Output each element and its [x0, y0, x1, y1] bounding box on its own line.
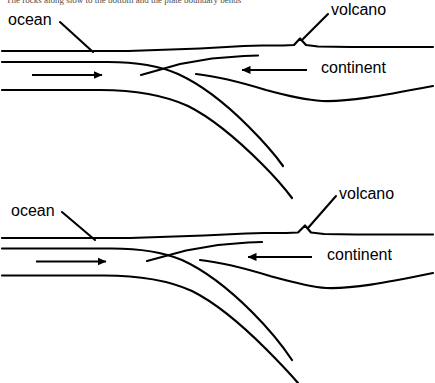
diagram-canvas: The rocks along slow to the bottom and t… [0, 0, 435, 383]
volcano-label-bottom: volcano [339, 186, 394, 202]
continental-wedge-line-top [141, 56, 258, 76]
oceanic-crust-base-line-bottom [2, 249, 292, 361]
continental-wedge-line-bottom [147, 242, 262, 261]
ocean-leader-line-bottom [62, 212, 95, 240]
lithosphere-base-line-bottom [2, 276, 298, 383]
ocean-label-top: ocean [8, 12, 52, 28]
continental-moho-line-top [196, 74, 433, 101]
continent-label-bottom: continent [327, 247, 392, 263]
continental-moho-line-bottom [200, 260, 433, 288]
lithosphere-base-line-top [2, 90, 292, 198]
surface-line-top [2, 39, 433, 52]
surface-line-bottom [2, 226, 433, 239]
bottom-panel-group [2, 196, 433, 383]
continent-label-top: continent [321, 60, 386, 76]
ocean-label-bottom: ocean [11, 203, 55, 219]
oceanic-crust-base-line-top [2, 62, 283, 166]
volcano-label-top: volcano [331, 2, 386, 18]
top-panel-group [2, 14, 433, 198]
ocean-leader-line-top [60, 22, 93, 52]
volcano-leader-line-bottom [308, 196, 336, 228]
volcano-leader-line-top [302, 14, 328, 40]
